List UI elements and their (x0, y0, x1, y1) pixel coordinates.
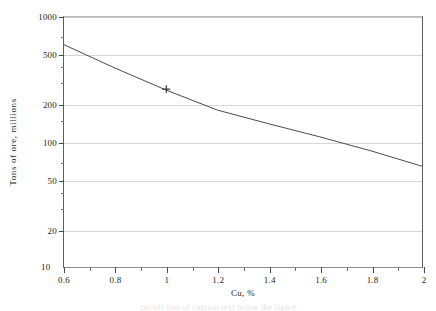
y-axis-title-text: Tons of ore, millions (8, 98, 18, 185)
xtick-1.4 (270, 267, 271, 273)
xtick-0.6 (64, 267, 65, 273)
xtick-label-2.0: 2 (422, 276, 427, 285)
xtick-minor-0.9 (141, 267, 142, 271)
xtick-minor-1.3 (244, 267, 245, 271)
ytick-label-500: 500 (43, 50, 57, 59)
xtick-1.8 (373, 267, 374, 273)
xtick-minor-0.7 (90, 267, 91, 271)
xtick-label-0.8: 0.8 (109, 276, 121, 285)
xtick-1.2 (218, 267, 219, 273)
y-axis-title: Tons of ore, millions (6, 16, 20, 268)
ytick-label-50: 50 (48, 176, 57, 185)
xtick-label-1.0: 1 (165, 276, 170, 285)
series-line-tons-of-ore (64, 45, 422, 166)
ytick-label-100: 100 (43, 139, 57, 148)
x-axis-title: Cu, % (63, 288, 423, 298)
xtick-1.6 (321, 267, 322, 273)
ytick-label-10: 10 (41, 263, 50, 272)
xtick-minor-1.5 (295, 267, 296, 271)
ytick-label-20: 20 (48, 227, 57, 236)
xtick-label-1.6: 1.6 (315, 276, 327, 285)
xtick-0.8 (115, 267, 116, 273)
xtick-minor-1.1 (193, 267, 194, 271)
xtick-label-1.2: 1.2 (212, 276, 224, 285)
xtick-minor-1.9 (398, 267, 399, 271)
xtick-label-1.8: 1.8 (367, 276, 379, 285)
xtick-minor-1.7 (347, 267, 348, 271)
xtick-label-1.4: 1.4 (264, 276, 276, 285)
plot-area: 1000 500 200 100 50 (63, 16, 423, 268)
xtick-2.0 (424, 267, 425, 273)
marker-group (162, 85, 170, 93)
data-layer (64, 17, 422, 267)
caption-remnant: cut-off line of caption text below the f… (0, 303, 436, 311)
x-axis-title-text: Cu, % (231, 288, 255, 298)
xtick-label-0.6: 0.6 (58, 276, 70, 285)
xtick-1.0 (167, 267, 168, 273)
figure-canvas: Tons of ore, millions 1000 500 200 100 (0, 0, 436, 311)
ytick-label-1000: 1000 (38, 13, 57, 22)
ytick-label-200: 200 (43, 101, 57, 110)
